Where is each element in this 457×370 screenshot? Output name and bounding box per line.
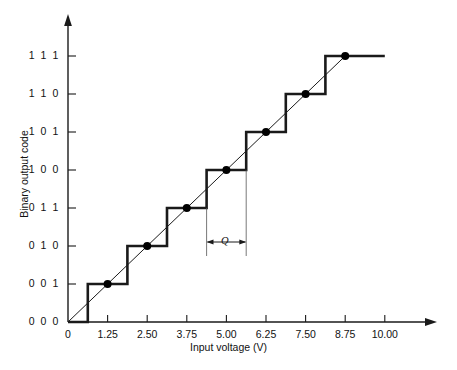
marker-100	[222, 166, 230, 174]
marker-011	[183, 204, 191, 212]
quantized-staircase-curve	[68, 56, 385, 322]
y-tick-label-010: 0 1 0	[0, 239, 60, 251]
y-tick-label-000: 0 0 0	[0, 315, 60, 327]
x-tick-label-5-00: 5.00	[206, 328, 246, 340]
x-tick-label-1-25: 1.25	[88, 328, 128, 340]
axes-group	[64, 14, 437, 326]
marker-001	[104, 280, 112, 288]
y-tick-marks	[68, 56, 76, 284]
marker-111	[341, 52, 349, 60]
y-tick-label-001: 0 0 1	[0, 277, 60, 289]
adc-transfer-function-chart: 1 1 1 1 1 0 1 0 1 1 0 0 0 1 1 0 1 0 0 0 …	[0, 0, 457, 370]
marker-010	[143, 242, 151, 250]
x-tick-label-0: 0	[48, 328, 88, 340]
x-tick-marks	[108, 315, 385, 322]
y-axis-arrowhead	[64, 14, 72, 26]
y-tick-label-101: 1 0 1	[0, 125, 60, 137]
x-tick-label-7-50: 7.50	[286, 328, 326, 340]
y-tick-label-111: 1 1 1	[0, 49, 60, 61]
x-tick-label-2-50: 2.50	[127, 328, 167, 340]
x-tick-label-8-75: 8.75	[325, 328, 365, 340]
y-tick-label-100: 1 0 0	[0, 163, 60, 175]
x-axis-arrowhead	[425, 318, 437, 326]
marker-101	[262, 128, 270, 136]
x-tick-label-10-00: 10.00	[365, 328, 405, 340]
y-tick-label-011: 0 1 1	[0, 201, 60, 213]
chart-canvas	[0, 0, 457, 370]
x-axis-title: Input voltage (V)	[0, 341, 457, 353]
q-arrowhead-right	[239, 239, 246, 244]
y-axis-title: Binary output code	[18, 104, 30, 244]
q-arrowhead-left	[207, 239, 214, 244]
y-tick-label-110: 1 1 0	[0, 87, 60, 99]
q-annotation-label: Q	[221, 235, 229, 246]
x-tick-label-6-25: 6.25	[246, 328, 286, 340]
marker-110	[302, 90, 310, 98]
x-tick-label-3-75: 3.75	[167, 328, 207, 340]
